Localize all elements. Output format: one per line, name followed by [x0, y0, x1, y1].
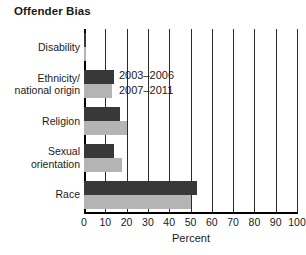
category-label: Sexualorientation	[2, 145, 80, 170]
bar	[84, 47, 86, 61]
bar-group	[84, 144, 297, 172]
bar	[84, 70, 114, 84]
category-label: Race	[2, 188, 80, 201]
x-tick-label: 70	[227, 216, 239, 228]
bar	[84, 181, 197, 195]
x-tick-label: 100	[288, 216, 306, 228]
bar-group	[84, 181, 297, 209]
category-label: Disability	[2, 41, 80, 54]
x-tick-label: 90	[270, 216, 282, 228]
category-axis-labels: DisabilityEthnicity/national originRelig…	[0, 29, 80, 213]
category-label-line: orientation	[2, 158, 80, 171]
bar-group	[84, 33, 297, 61]
bar	[84, 84, 112, 98]
legend-label: 2007–2011	[119, 84, 173, 96]
x-tick-label: 20	[121, 216, 133, 228]
category-label: Ethnicity/national origin	[2, 72, 80, 97]
x-tick-label: 80	[249, 216, 261, 228]
x-tick-label: 0	[81, 216, 87, 228]
chart-legend: 2003–20062007–2011	[119, 68, 174, 98]
bar	[84, 121, 127, 135]
chart-title: Offender Bias	[14, 5, 91, 17]
x-tick-label: 60	[206, 216, 218, 228]
legend-label: 2003–2006	[119, 69, 174, 81]
x-axis-title: Percent	[84, 232, 298, 244]
category-label-line: Disability	[2, 41, 80, 54]
category-label-line: Sexual	[2, 145, 80, 158]
category-label-line: national origin	[2, 84, 80, 97]
bar-group	[84, 70, 297, 98]
bar	[84, 158, 122, 172]
offender-bias-bar-chart: Offender Bias DisabilityEthnicity/nation…	[0, 0, 306, 255]
bar-group	[84, 107, 297, 135]
x-axis-baseline	[84, 212, 298, 214]
category-label-line: Race	[2, 188, 80, 201]
x-tick-label: 30	[142, 216, 154, 228]
bar	[84, 33, 86, 47]
bar	[84, 195, 191, 209]
x-tick-label: 10	[99, 216, 111, 228]
x-tick-label: 40	[163, 216, 175, 228]
legend-entry: 2003–2006	[119, 68, 174, 83]
x-axis-tick-labels: 0102030405060708090100	[84, 216, 298, 230]
category-label-line: Religion	[2, 115, 80, 128]
gridline-100	[297, 29, 298, 213]
plot-area	[84, 29, 297, 213]
legend-entry: 2007–2011	[119, 83, 174, 98]
bar	[84, 144, 114, 158]
category-label-line: Ethnicity/	[2, 72, 80, 85]
bar	[84, 107, 120, 121]
x-tick-label: 50	[185, 216, 197, 228]
category-label: Religion	[2, 115, 80, 128]
